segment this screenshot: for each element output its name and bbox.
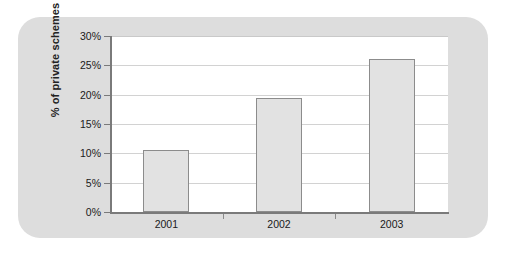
x-tick-label-2001: 2001: [155, 218, 178, 230]
x-axis-line: [110, 212, 449, 214]
x-tick-mark: [335, 214, 336, 219]
chart-panel: % of private schemes 0%5%10%15%20%25%30%…: [18, 17, 488, 238]
y-tick-label: 10%: [80, 147, 101, 159]
y-tick-label: 0%: [86, 206, 101, 218]
bar-2003: [369, 59, 415, 212]
y-tick-label: 25%: [80, 59, 101, 71]
x-tick-label-2003: 2003: [380, 218, 403, 230]
chart-figure: % of private schemes 0%5%10%15%20%25%30%…: [0, 0, 506, 254]
x-tick-mark: [223, 214, 224, 219]
y-tick-label: 30%: [80, 30, 101, 42]
y-tick-label: 20%: [80, 89, 101, 101]
y-axis-title: % of private schemes: [49, 0, 67, 148]
plot-area: 0%5%10%15%20%25%30% 200120022003: [110, 36, 448, 212]
gridline: [112, 36, 448, 37]
bar-2002: [256, 98, 302, 212]
bar-2001: [143, 150, 189, 212]
x-tick-label-2002: 2002: [267, 218, 290, 230]
y-tick-label: 5%: [86, 177, 101, 189]
y-axis-line: [110, 36, 112, 213]
y-tick-label: 15%: [80, 118, 101, 130]
